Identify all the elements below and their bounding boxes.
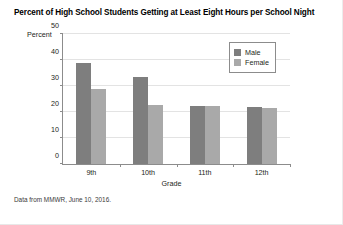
bar-male-10th [133, 77, 148, 164]
x-tick-mark [233, 164, 234, 167]
y-tick-label: 10 [51, 125, 59, 134]
y-axis-label: Percent [27, 30, 52, 39]
y-tick-label: 30 [51, 73, 59, 82]
legend-label: Female [245, 58, 269, 67]
y-tick-label: 0 [55, 151, 59, 160]
source-note: Data from MMWR, June 10, 2016. [14, 196, 111, 203]
x-tick-label: 11th [177, 168, 234, 177]
x-tick-mark [177, 164, 178, 167]
legend-label: Male [245, 48, 261, 57]
bar-female-12th [262, 108, 277, 164]
x-tick-mark [120, 164, 121, 167]
y-tick-label: 40 [51, 47, 59, 56]
chart-figure: Percent of High School Students Getting … [0, 0, 343, 225]
bar-female-11th [205, 106, 220, 164]
x-tick-label: 12th [233, 168, 290, 177]
x-axis-label: Grade [0, 179, 343, 188]
bar-male-12th [247, 107, 262, 164]
chart-legend: MaleFemale [229, 42, 276, 73]
y-tick-label: 20 [51, 99, 59, 108]
legend-swatch-icon [234, 49, 241, 56]
bar-group: 10th [120, 34, 177, 164]
bar-female-10th [148, 105, 163, 164]
bar-male-11th [190, 106, 205, 165]
x-tick-mark [290, 164, 291, 167]
y-tick-label: 50 [51, 21, 59, 30]
chart-title: Percent of High School Students Getting … [14, 8, 334, 17]
legend-item-female: Female [234, 58, 269, 67]
bar-group: 9th [63, 34, 120, 164]
x-tick-label: 9th [63, 168, 120, 177]
bar-male-9th [76, 63, 91, 164]
bar-female-9th [91, 89, 106, 164]
legend-swatch-icon [234, 59, 241, 66]
bar-group: 11th [177, 34, 234, 164]
x-tick-label: 10th [120, 168, 177, 177]
legend-item-male: Male [234, 48, 269, 57]
